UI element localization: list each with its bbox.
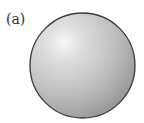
sphere [30,13,135,118]
sphere-diagram [0,0,144,123]
